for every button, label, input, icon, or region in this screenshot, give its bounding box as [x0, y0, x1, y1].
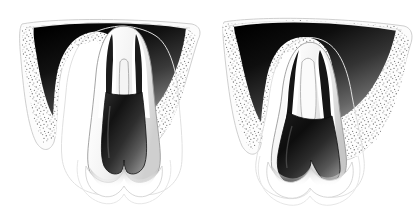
- dental-cross-section-figure: Molar tooth cross-section comparison Two…: [0, 0, 420, 214]
- furcation-bone-right: [301, 58, 317, 122]
- figure-svg-root: [0, 0, 420, 214]
